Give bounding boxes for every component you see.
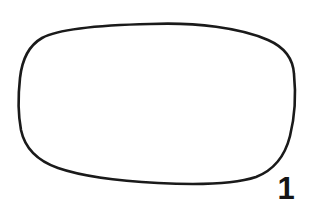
figure-canvas: 1 [0,0,313,210]
lens-outline-path [19,24,295,184]
figure-number-label: 1 [272,172,300,204]
lens-outline-shape [0,0,313,210]
